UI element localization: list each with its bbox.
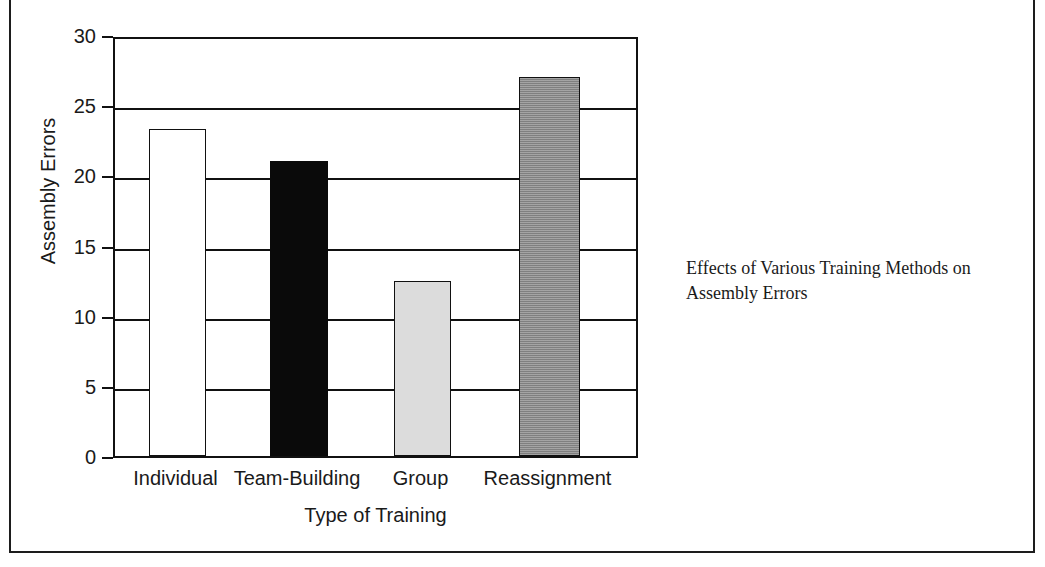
bar-individual — [149, 129, 206, 456]
figure-caption: Effects of Various Training Methods on A… — [686, 256, 986, 306]
bar-group — [394, 281, 451, 456]
y-axis-title: Assembly Errors — [37, 81, 59, 301]
y-axis-tick-label: 5 — [40, 377, 96, 397]
y-axis-tick-label: 0 — [40, 447, 96, 467]
bar-reassignment — [519, 77, 580, 456]
y-axis-tick — [102, 457, 113, 459]
x-axis-tick-label: Reassignment — [438, 466, 658, 490]
y-axis-tick — [102, 387, 113, 389]
y-axis-tick — [102, 247, 113, 249]
figure-border-left — [9, 0, 11, 553]
y-axis-tick — [102, 36, 113, 38]
plot-area — [113, 37, 638, 458]
y-axis-tick — [102, 106, 113, 108]
figure-border-right — [1033, 0, 1035, 553]
y-axis-tick-label: 10 — [40, 307, 96, 327]
y-axis-tick — [102, 176, 113, 178]
figure-root: 302520151050 Assembly Errors IndividualT… — [0, 0, 1045, 567]
figure-border-bottom — [9, 551, 1035, 553]
bar-team-building — [270, 161, 328, 456]
y-axis-tick — [102, 317, 113, 319]
y-axis-tick-label: 30 — [40, 26, 96, 46]
x-axis-title: Type of Training — [113, 503, 638, 527]
